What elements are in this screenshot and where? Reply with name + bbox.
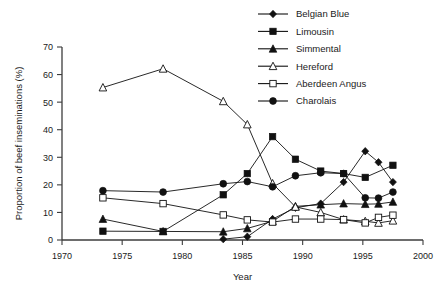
marker-limousin	[244, 170, 250, 176]
marker-belgian-blue	[244, 233, 251, 240]
legend-label-limousin: Limousin	[296, 26, 334, 37]
marker-aberdeen-angus	[160, 200, 166, 206]
legend-label-charolais: Charolais	[296, 95, 336, 106]
legend-marker-belgian-blue	[270, 10, 277, 17]
marker-hereford	[219, 97, 227, 104]
y-tick-label: 30	[43, 153, 53, 163]
chart-figure: 0102030405060701970197519801985199019952…	[0, 0, 437, 298]
marker-belgian-blue	[389, 178, 396, 185]
y-tick-label: 40	[43, 125, 53, 135]
marker-limousin	[269, 133, 275, 139]
legend-label-belgian-blue: Belgian Blue	[296, 8, 349, 19]
marker-simmental	[389, 198, 397, 205]
x-tick-label: 1995	[353, 251, 373, 261]
marker-aberdeen-angus	[220, 212, 226, 218]
legend-marker-limousin	[270, 28, 276, 34]
y-tick-label: 10	[43, 208, 53, 218]
marker-charolais	[362, 194, 369, 201]
marker-aberdeen-angus	[390, 212, 396, 218]
legend-marker-aberdeen-angus	[270, 80, 276, 86]
legend-label-aberdeen-angus: Aberdeen Angus	[296, 78, 367, 89]
marker-charolais	[375, 195, 382, 202]
line-chart: 0102030405060701970197519801985199019952…	[0, 0, 437, 298]
marker-belgian-blue	[220, 235, 227, 242]
marker-hereford	[99, 84, 107, 91]
marker-aberdeen-angus	[340, 216, 346, 222]
marker-aberdeen-angus	[244, 217, 250, 223]
marker-charolais	[244, 178, 251, 185]
marker-limousin	[390, 162, 396, 168]
y-tick-label: 70	[43, 42, 53, 52]
legend-marker-charolais	[270, 98, 277, 105]
marker-charolais	[220, 180, 227, 187]
marker-hereford	[159, 65, 167, 72]
marker-charolais	[269, 183, 276, 190]
marker-aberdeen-angus	[362, 220, 368, 226]
y-tick-label: 60	[43, 70, 53, 80]
x-tick-label: 2000	[413, 251, 433, 261]
x-tick-label: 1970	[52, 251, 72, 261]
y-tick-label: 0	[48, 235, 53, 245]
marker-charolais	[340, 170, 347, 177]
marker-charolais	[390, 189, 397, 196]
marker-limousin	[100, 228, 106, 234]
y-tick-label: 50	[43, 98, 53, 108]
x-tick-label: 1985	[232, 251, 252, 261]
x-axis-title: Year	[233, 271, 252, 282]
series-line-hereford	[103, 69, 393, 223]
x-tick-label: 1975	[112, 251, 132, 261]
marker-charolais	[160, 189, 167, 196]
marker-aberdeen-angus	[318, 216, 324, 222]
x-tick-label: 1980	[172, 251, 192, 261]
marker-charolais	[292, 172, 299, 179]
marker-limousin	[220, 192, 226, 198]
marker-charolais	[317, 169, 324, 176]
y-tick-label: 20	[43, 180, 53, 190]
marker-charolais	[100, 187, 107, 194]
marker-limousin	[362, 174, 368, 180]
legend-label-hereford: Hereford	[296, 61, 333, 72]
legend-label-simmental: Simmental	[296, 43, 341, 54]
x-tick-label: 1990	[293, 251, 313, 261]
marker-aberdeen-angus	[100, 195, 106, 201]
y-axis-title: Proportion of beef inseminations (%)	[13, 67, 24, 221]
marker-aberdeen-angus	[375, 214, 381, 220]
marker-limousin	[292, 156, 298, 162]
marker-aberdeen-angus	[292, 216, 298, 222]
marker-aberdeen-angus	[269, 219, 275, 225]
marker-simmental	[99, 215, 107, 222]
